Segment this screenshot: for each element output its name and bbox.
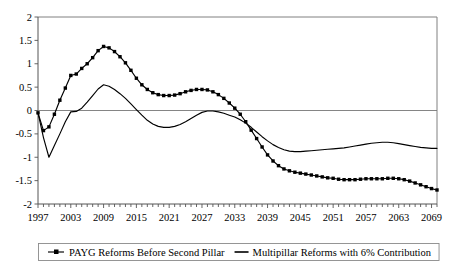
series-data-point	[260, 145, 263, 148]
x-tick-label: 2021	[159, 212, 180, 223]
series-data-point	[233, 106, 236, 109]
y-tick-label: -0.5	[15, 128, 32, 139]
series-data-point	[321, 175, 324, 178]
series-data-point	[310, 173, 313, 176]
series-data-point	[47, 125, 50, 128]
y-axis-ticks	[35, 17, 39, 204]
y-tick-label: -1.5	[15, 175, 32, 186]
series-data-point	[277, 164, 280, 167]
series-data-point	[85, 62, 88, 65]
series-data-point	[200, 88, 203, 91]
chart-canvas: 21.510.50-0.5-1-1.5-2 199720032009201520…	[0, 0, 449, 270]
series-data-point	[392, 177, 395, 180]
legend-label-multipillar: Multipillar Reforms with 6% Contribution	[253, 247, 432, 258]
y-tick-label: 2	[27, 12, 32, 23]
series-data-point	[271, 159, 274, 162]
series-data-point	[58, 99, 61, 102]
x-tick-label: 1997	[28, 212, 49, 223]
x-tick-label: 2069	[421, 212, 442, 223]
legend-item-multipillar[interactable]: Multipillar Reforms with 6% Contribution	[235, 247, 432, 258]
series-data-point	[435, 188, 438, 191]
series-data-point	[419, 183, 422, 186]
chart-legend: PAYG Reforms Before Second Pillar Multip…	[39, 244, 440, 261]
series-data-point	[102, 45, 105, 48]
x-tick-label: 2009	[93, 212, 114, 223]
x-tick-label: 2033	[224, 212, 245, 223]
series-data-point	[288, 169, 291, 172]
series-data-point	[403, 178, 406, 181]
series-data-point	[266, 153, 269, 156]
series-data-point	[135, 77, 138, 80]
series-data-point	[217, 93, 220, 96]
series-data-point	[53, 113, 56, 116]
series-data-point	[375, 177, 378, 180]
series-data-point	[178, 92, 181, 95]
series-data-point	[348, 178, 351, 181]
series-data-point	[282, 167, 285, 170]
x-tick-label: 2057	[355, 212, 376, 223]
y-tick-label: -1	[23, 152, 32, 163]
series-data-point	[118, 55, 121, 58]
series-data-point	[342, 178, 345, 181]
series-data-point	[304, 172, 307, 175]
series-data-point	[167, 94, 170, 97]
series-data-point	[140, 83, 143, 86]
y-tick-label: 0.5	[19, 82, 32, 93]
series-data-point	[430, 187, 433, 190]
x-tick-label: 2039	[257, 212, 278, 223]
series-data-point	[195, 88, 198, 91]
series-data-point	[64, 86, 67, 89]
series-data-point	[206, 88, 209, 91]
series-data-point	[331, 177, 334, 180]
series-data-point	[96, 49, 99, 52]
x-tick-label: 2045	[290, 212, 311, 223]
series-data-point	[315, 174, 318, 177]
series-data-point	[255, 137, 258, 140]
legend-item-payg[interactable]: PAYG Reforms Before Second Pillar	[48, 247, 225, 258]
series-data-point	[293, 171, 296, 174]
series-data-point	[129, 69, 132, 72]
series-data-point	[75, 72, 78, 75]
series-data-point	[364, 177, 367, 180]
series-data-point	[69, 74, 72, 77]
series-data-point	[397, 177, 400, 180]
series-data-point	[107, 46, 110, 49]
series-data-point	[146, 88, 149, 91]
series-data-point	[113, 50, 116, 53]
series-data-point	[381, 177, 384, 180]
series-data-point	[326, 176, 329, 179]
x-axis-ticks	[38, 204, 437, 208]
y-tick-label: 0	[27, 105, 32, 116]
series-data-point	[353, 178, 356, 181]
series-data-point	[337, 178, 340, 181]
series-data-point	[157, 93, 160, 96]
y-tick-label: -2	[23, 199, 32, 210]
x-tick-label: 2051	[323, 212, 344, 223]
series-data-point	[91, 56, 94, 59]
y-axis-labels: 21.510.50-0.5-1-1.5-2	[15, 12, 32, 210]
series-data-point	[222, 97, 225, 100]
series-data-point	[228, 101, 231, 104]
series-data-point	[189, 89, 192, 92]
series-data-point	[359, 178, 362, 181]
series-data-point	[184, 90, 187, 93]
series-data-point	[162, 94, 165, 97]
chart-figure: 21.510.50-0.5-1-1.5-2 199720032009201520…	[0, 0, 449, 270]
x-axis-labels: 1997200320092015202120272033203920452051…	[28, 212, 443, 223]
x-tick-label: 2003	[60, 212, 81, 223]
x-tick-label: 2027	[191, 212, 212, 223]
series-data-point	[386, 177, 389, 180]
series-data-point	[239, 113, 242, 116]
y-tick-label: 1.5	[19, 35, 32, 46]
x-tick-label: 2063	[388, 212, 409, 223]
series-data-point	[211, 90, 214, 93]
series-data-point	[413, 181, 416, 184]
y-tick-label: 1	[27, 58, 32, 69]
series-data-point	[80, 67, 83, 70]
series-data-point	[408, 179, 411, 182]
series-data-point	[151, 91, 154, 94]
legend-label-payg: PAYG Reforms Before Second Pillar	[69, 247, 225, 258]
series-data-point	[424, 185, 427, 188]
series-data-point	[370, 177, 373, 180]
series-data-point	[299, 171, 302, 174]
